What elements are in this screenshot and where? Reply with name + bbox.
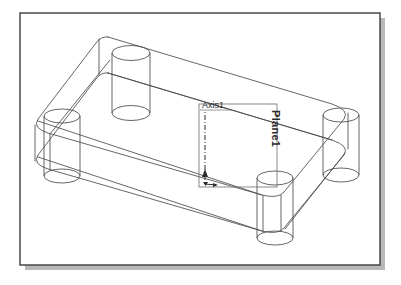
cad-viewport[interactable]: Plane1 Axis1 CAD Isometric Wireframe Vie…: [0, 0, 401, 285]
drawing-frame: [20, 13, 380, 265]
plane1-label: Plane1: [270, 110, 282, 147]
axis1-label: Axis1: [202, 100, 224, 110]
cad-drawing-canvas[interactable]: Plane1 Axis1: [0, 0, 401, 285]
